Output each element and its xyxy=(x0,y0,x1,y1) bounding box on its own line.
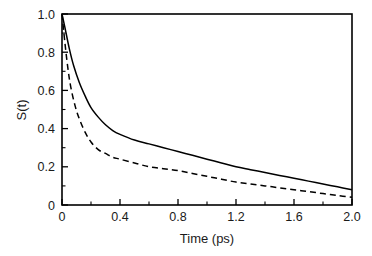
y-tick-label: 1.0 xyxy=(38,8,55,22)
x-tick-label: 0.4 xyxy=(111,210,128,224)
decay-curve-chart: 00.40.81.21.62.0 00.20.40.60.81.0 Time (… xyxy=(0,0,372,256)
x-tick-label: 1.2 xyxy=(227,210,244,224)
y-tick-label: 0.2 xyxy=(38,160,55,174)
x-tick-label: 0.8 xyxy=(169,210,186,224)
y-tick-label: 0 xyxy=(48,199,55,213)
y-tick-label: 0.4 xyxy=(38,122,55,136)
y-axis-title: S(t) xyxy=(14,100,29,121)
x-axis-title: Time (ps) xyxy=(180,231,234,246)
x-tick-label: 0 xyxy=(59,210,66,224)
x-tick-label: 1.6 xyxy=(285,210,302,224)
x-tick-label: 2.0 xyxy=(343,210,360,224)
y-tick-label: 0.6 xyxy=(38,84,55,98)
y-tick-label: 0.8 xyxy=(38,46,55,60)
